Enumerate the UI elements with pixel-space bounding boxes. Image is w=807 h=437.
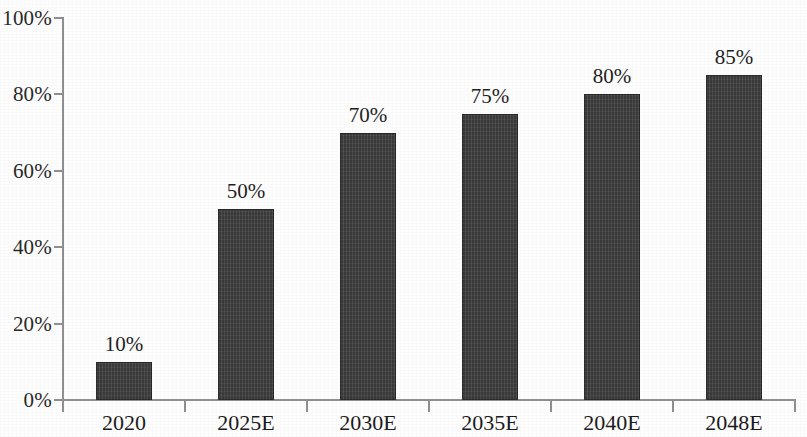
y-axis-tick-label: 80% xyxy=(0,84,52,105)
y-axis-tick xyxy=(54,170,63,172)
x-axis-category-label: 2048E xyxy=(664,412,804,434)
x-axis-category-label: 2025E xyxy=(176,412,316,434)
bar-value-label: 75% xyxy=(430,86,550,107)
bar-chart: 0%20%40%60%80%100% 10%50%70%75%80%85% 20… xyxy=(0,0,807,437)
bar xyxy=(218,209,274,400)
bar xyxy=(584,94,640,400)
x-axis-tick xyxy=(550,401,552,412)
bar-value-label: 70% xyxy=(308,105,428,126)
y-axis-tick xyxy=(54,17,63,19)
x-axis-tick xyxy=(184,401,186,412)
y-axis-tick xyxy=(54,246,63,248)
y-axis-tick-label: 20% xyxy=(0,313,52,334)
y-axis-tick-label: 40% xyxy=(0,237,52,258)
x-axis-tick xyxy=(672,401,674,412)
y-axis-tick-label: 60% xyxy=(0,160,52,181)
bar-value-label: 85% xyxy=(674,47,794,68)
x-axis-category-label: 2040E xyxy=(542,412,682,434)
y-axis-tick-label: 0% xyxy=(0,390,52,411)
bar xyxy=(706,75,762,400)
bar xyxy=(96,362,152,400)
bar xyxy=(462,114,518,401)
bar-value-label: 10% xyxy=(64,334,184,355)
y-axis-tick-label: 100% xyxy=(0,8,52,29)
x-axis-tick xyxy=(794,401,796,412)
x-axis-category-label: 2035E xyxy=(420,412,560,434)
y-axis-tick xyxy=(54,323,63,325)
x-axis-category-label: 2030E xyxy=(298,412,438,434)
bar-value-label: 50% xyxy=(186,181,306,202)
bar-value-label: 80% xyxy=(552,66,672,87)
x-axis-tick xyxy=(62,401,64,412)
y-axis-tick xyxy=(54,93,63,95)
bar xyxy=(340,133,396,400)
x-axis-category-label: 2020 xyxy=(54,412,194,434)
x-axis-tick xyxy=(428,401,430,412)
x-axis-tick xyxy=(306,401,308,412)
